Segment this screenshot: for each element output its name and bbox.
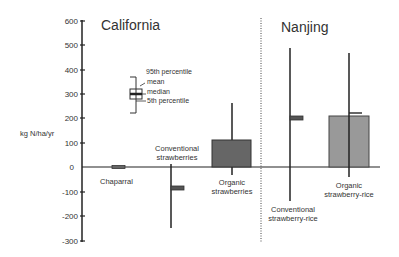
svg-text:400: 400: [65, 66, 79, 75]
svg-text:100: 100: [65, 139, 79, 148]
label-chaparral: Chaparral: [100, 177, 133, 186]
svg-text:600: 600: [65, 17, 79, 26]
svg-text:-200: -200: [62, 212, 79, 221]
y-tick-labels: 600 500 400 300 200 100 0 -100 -200 -300: [62, 17, 79, 246]
nanjing-title: Nanjing: [281, 19, 328, 35]
box-organic-strawberry-rice: [329, 53, 369, 177]
y-axis-label: kg N/ha/yr: [20, 129, 55, 138]
legend: 95th percentile mean median 5th percenti…: [130, 68, 192, 113]
svg-text:-100: -100: [62, 188, 79, 197]
legend-mean: mean: [147, 78, 165, 85]
svg-text:0: 0: [70, 163, 75, 172]
box-organic-strawberries: [212, 103, 251, 175]
svg-text:200: 200: [65, 114, 79, 123]
box-conventional-strawberry-rice: [290, 48, 303, 201]
label-org-straw-1: Organic: [219, 178, 246, 187]
svg-text:-300: -300: [62, 237, 79, 246]
legend-5th: 5th percentile: [147, 97, 189, 105]
label-conv-straw-1: Conventional: [155, 144, 199, 153]
chart: 600 500 400 300 200 100 0 -100 -200 -300…: [0, 0, 399, 257]
label-conv-rice-1: Conventional: [271, 205, 315, 214]
box-conventional-strawberries: [171, 164, 184, 228]
svg-text:300: 300: [65, 90, 79, 99]
label-org-rice-1: Organic: [336, 181, 363, 190]
legend-median: median: [147, 88, 170, 95]
svg-text:500: 500: [65, 41, 79, 50]
label-org-straw-2: strawberries: [212, 187, 253, 196]
label-conv-straw-2: strawberries: [157, 153, 198, 162]
box-chaparral: [112, 166, 125, 169]
legend-95th: 95th percentile: [146, 68, 192, 76]
label-org-rice-2: strawberry-rice: [324, 190, 374, 199]
label-conv-rice-2: strawberry-rice: [268, 214, 318, 223]
california-title: California: [101, 17, 160, 33]
